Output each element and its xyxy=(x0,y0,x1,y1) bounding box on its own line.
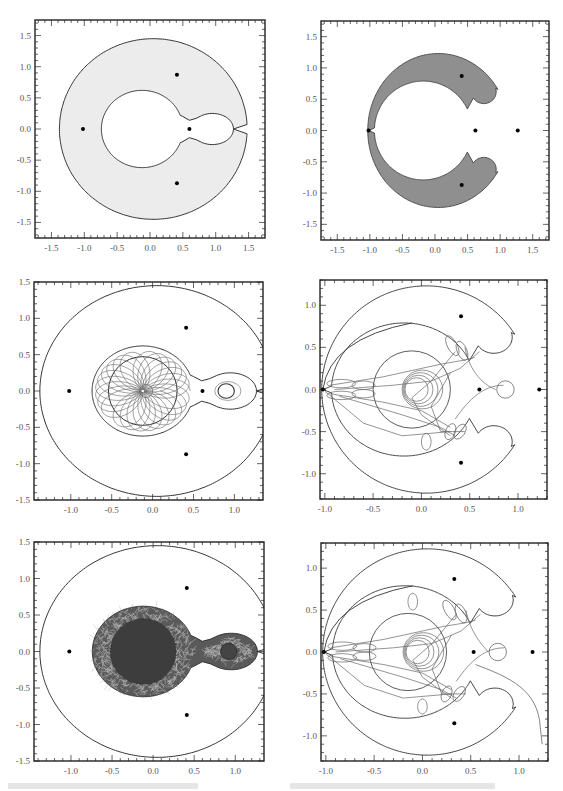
y-tick-label: 1.0 xyxy=(306,563,318,573)
y-tick-label: 0.0 xyxy=(20,124,32,134)
orbit-trajectory xyxy=(413,614,456,698)
y-tick-label: 0.0 xyxy=(19,647,31,657)
y-tick-label: -1.0 xyxy=(16,459,31,469)
plot-area xyxy=(40,546,275,758)
equilibrium-point xyxy=(81,127,85,131)
equilibrium-point xyxy=(184,326,188,330)
y-tick-label: -1.0 xyxy=(302,469,317,479)
y-tick-label: 0.0 xyxy=(305,385,317,395)
y-tick-label: -1.5 xyxy=(17,217,32,227)
x-tick-label: -0.5 xyxy=(105,766,120,776)
orbit-loop xyxy=(403,373,438,407)
upper-horseshoe-region xyxy=(368,54,498,131)
x-tick-label: 0.5 xyxy=(189,766,201,776)
equilibrium-point xyxy=(531,650,535,654)
orbit-loop xyxy=(440,598,459,622)
equilibrium-point xyxy=(67,389,71,393)
y-tick-label: 1.0 xyxy=(305,300,317,310)
equilibrium-point xyxy=(472,650,476,654)
equilibrium-point xyxy=(473,129,477,133)
equilibrium-point xyxy=(187,127,191,131)
y-tick-label: -0.5 xyxy=(302,427,317,437)
small-orbit-loop xyxy=(497,381,514,398)
ticks xyxy=(320,280,547,499)
panel-5: -1.0-0.50.00.51.01.51.00.50.0-0.5-1.0-1.… xyxy=(4,512,294,791)
y-tick-label: -0.5 xyxy=(16,683,31,693)
y-tick-label: 1.0 xyxy=(20,62,32,72)
y-tick-label: -0.5 xyxy=(303,157,318,167)
x-tick-label: 1.0 xyxy=(513,766,525,776)
escaping-trajectory xyxy=(476,665,543,745)
orbit-trajectory xyxy=(412,352,455,436)
equilibrium-point xyxy=(459,314,463,318)
panel-4: -1.0-0.50.00.51.01.00.50.0-0.5-1.0 xyxy=(290,250,563,529)
inner-circle xyxy=(110,619,176,685)
y-tick-label: 0.5 xyxy=(19,350,31,360)
plot-area xyxy=(40,286,273,497)
y-tick-label: 0.5 xyxy=(305,342,317,352)
y-tick-label: -0.5 xyxy=(303,689,318,699)
orbit-loop xyxy=(408,593,418,610)
equilibrium-point xyxy=(477,388,481,392)
small-orbit-loop xyxy=(489,643,506,660)
small-circle xyxy=(220,643,236,659)
y-tick-label: 0.5 xyxy=(20,93,32,103)
orbit-loop xyxy=(406,640,429,663)
orbit-trajectory xyxy=(336,614,481,652)
plot-area xyxy=(367,54,520,208)
orbit-loop xyxy=(418,699,428,714)
panel-1: -1.5-1.0-0.50.00.51.01.51.51.00.50.0-0.5… xyxy=(5,0,295,268)
x-tick-label: 0.0 xyxy=(417,766,429,776)
equilibrium-point xyxy=(452,577,456,581)
y-tick-label: -1.5 xyxy=(303,219,318,229)
x-tick-label: -1.0 xyxy=(64,766,79,776)
y-tick-label: 0.0 xyxy=(306,647,318,657)
orbit-loop xyxy=(421,433,431,450)
y-tick-label: 0.0 xyxy=(19,386,31,396)
small-orbit xyxy=(218,384,234,399)
caption-bar-right xyxy=(290,783,495,789)
equilibrium-point xyxy=(460,74,464,78)
x-tick-label: 1.0 xyxy=(230,766,242,776)
equilibrium-point xyxy=(367,129,371,133)
plot-area xyxy=(59,39,247,220)
panel-6: -1.0-0.50.00.51.01.00.50.0-0.5-1.0 xyxy=(291,513,563,791)
panel-3: -1.0-0.50.00.51.01.51.00.50.0-0.5-1.0-1.… xyxy=(4,252,293,530)
y-tick-label: 1.0 xyxy=(19,574,31,584)
lower-horseshoe-region xyxy=(368,131,498,208)
orbit-trajectory xyxy=(466,610,488,652)
y-tick-label: -1.5 xyxy=(16,495,31,505)
upper-horseshoe-region xyxy=(322,286,515,390)
orbit-trajectory xyxy=(465,347,496,389)
x-tick-label: 0.0 xyxy=(147,766,159,776)
equilibrium-point xyxy=(175,181,179,185)
lower-horseshoe-region xyxy=(323,652,516,755)
orbit-trajectory xyxy=(326,654,452,698)
orbit-loop xyxy=(352,390,375,398)
orbit-loop xyxy=(353,652,376,660)
orbit-trajectory xyxy=(456,648,504,682)
plot-area xyxy=(321,286,541,493)
y-tick-label: -1.5 xyxy=(16,756,31,766)
orbit-loop xyxy=(405,638,434,667)
x-tick-label: 0.5 xyxy=(465,766,477,776)
upper-horseshoe-region xyxy=(323,549,516,652)
y-tick-label: 0.5 xyxy=(306,605,318,615)
orbit-trajectory xyxy=(325,391,451,436)
orbit-trajectory xyxy=(96,351,191,431)
x-tick-label: -0.5 xyxy=(367,766,382,776)
outer-boundary xyxy=(40,286,273,497)
equilibrium-point xyxy=(452,721,456,725)
equilibrium-point xyxy=(175,73,179,77)
y-tick-label: 0.0 xyxy=(306,126,318,136)
equilibrium-point xyxy=(516,129,520,133)
y-tick-label: -0.5 xyxy=(17,155,32,165)
orbit-loop xyxy=(405,378,428,402)
orbit-loop xyxy=(404,635,439,669)
equilibrium-point xyxy=(460,183,464,187)
panel-2: -1.5-1.0-0.50.00.51.01.51.51.00.50.0-0.5… xyxy=(291,0,563,270)
x-tick-label: -1.0 xyxy=(319,766,334,776)
y-tick-label: -1.0 xyxy=(303,188,318,198)
y-tick-label: 1.5 xyxy=(20,31,32,41)
equilibrium-point xyxy=(185,586,189,590)
